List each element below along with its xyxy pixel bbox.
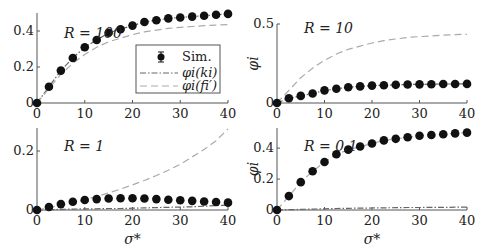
- sim-marker: [463, 80, 472, 89]
- sim-marker: [80, 196, 89, 205]
- sim-marker: [69, 54, 78, 63]
- sim-marker: [308, 167, 317, 176]
- figure-canvas: 01020304000.20.4R = 10001020304000.5R = …: [0, 0, 489, 252]
- legend-label-sim: Sim.: [182, 49, 212, 64]
- sim-marker: [439, 130, 448, 139]
- marker-icon: [158, 54, 165, 61]
- sim-marker: [427, 131, 436, 140]
- x-tick-label: 30: [411, 213, 428, 228]
- sim-marker: [116, 194, 125, 203]
- sim-marker: [285, 192, 294, 201]
- panel-annotation: R = 1: [63, 138, 104, 154]
- sim-marker: [140, 194, 149, 203]
- x-axis-label: σ*: [364, 231, 381, 247]
- sim-marker: [128, 194, 137, 203]
- sim-marker: [104, 194, 113, 203]
- panels: 01020304000.20.4R = 10001020304000.5R = …: [13, 10, 475, 247]
- sim-marker: [403, 80, 412, 89]
- sim-marker: [451, 80, 460, 89]
- y-tick-label: 0.2: [13, 143, 34, 158]
- x-tick-label: 30: [172, 106, 189, 121]
- sim-marker: [164, 195, 173, 204]
- sim-marker: [380, 136, 389, 145]
- sim-marker: [57, 66, 66, 75]
- panel-top-right: 01020304000.5R = 10φi: [245, 16, 475, 121]
- y-axis-label: φi: [245, 56, 261, 70]
- sim-marker: [200, 11, 209, 20]
- sim-marker: [427, 80, 436, 89]
- x-tick-label: 40: [459, 213, 476, 228]
- sim-marker: [332, 84, 341, 93]
- x-tick-label: 20: [364, 106, 381, 121]
- sim-marker: [176, 13, 185, 22]
- sim-marker: [212, 198, 221, 207]
- x-tick-label: 10: [316, 213, 333, 228]
- sim-marker: [45, 203, 54, 212]
- sim-marker: [296, 178, 305, 187]
- sim-marker: [128, 21, 137, 30]
- sim-marker: [356, 82, 365, 91]
- sim-marker: [320, 86, 329, 95]
- sim-marker: [176, 196, 185, 205]
- sim-marker: [188, 12, 197, 21]
- x-tick-label: 20: [124, 213, 141, 228]
- panel-bottom-left: 01020304000.2R = 1σ*: [13, 128, 236, 247]
- sim-marker: [391, 135, 400, 144]
- sim-marker: [212, 11, 221, 20]
- sim-marker: [152, 16, 161, 25]
- sim-marker: [285, 94, 294, 103]
- sim-marker: [140, 18, 149, 27]
- sim-marker: [33, 99, 42, 108]
- sim-marker: [45, 83, 54, 92]
- sim-marker: [415, 80, 424, 89]
- sim-marker: [415, 131, 424, 140]
- sim-marker: [296, 92, 305, 101]
- x-tick-label: 0: [33, 106, 41, 121]
- sim-marker: [451, 129, 460, 138]
- sim-marker: [344, 83, 353, 92]
- sim-marker: [368, 81, 377, 90]
- sim-marker: [188, 197, 197, 206]
- y-tick-label: 0.4: [253, 140, 274, 155]
- x-tick-label: 30: [172, 213, 189, 228]
- sim-marker: [320, 158, 329, 167]
- x-tick-label: 10: [76, 213, 93, 228]
- sim-marker: [57, 200, 66, 209]
- sim-marker: [273, 206, 282, 215]
- sim-marker: [308, 89, 317, 98]
- y-tick-label: 0.5: [253, 16, 274, 31]
- x-tick-label: 10: [316, 106, 333, 121]
- x-tick-label: 40: [459, 106, 476, 121]
- legend: Sim. φi(ki) φi(fi′): [136, 45, 220, 93]
- sim-marker: [224, 198, 233, 207]
- sim-marker: [152, 195, 161, 204]
- sim-marker: [69, 197, 78, 206]
- y-tick-label: 0.2: [13, 59, 34, 74]
- sim-marker: [33, 206, 42, 215]
- x-tick-label: 20: [124, 106, 141, 121]
- sim-marker: [164, 14, 173, 23]
- x-tick-label: 20: [364, 213, 381, 228]
- x-tick-label: 30: [411, 106, 428, 121]
- sim-marker: [380, 81, 389, 90]
- x-tick-label: 40: [220, 213, 237, 228]
- sim-marker: [391, 81, 400, 90]
- y-tick-label: 0.4: [13, 23, 34, 38]
- y-axis-label: φi: [245, 162, 261, 176]
- legend-label-f: φi(fi′): [182, 78, 217, 93]
- panel-annotation: R = 0.1: [303, 138, 357, 154]
- x-tick-label: 40: [220, 106, 237, 121]
- x-tick-label: 0: [273, 106, 281, 121]
- sim-marker: [80, 43, 89, 52]
- sim-marker: [273, 99, 282, 108]
- sim-marker: [463, 128, 472, 137]
- x-axis-label: σ*: [124, 231, 141, 247]
- sim-marker: [200, 197, 209, 206]
- curve-phi-f: [277, 34, 467, 103]
- sim-marker: [92, 195, 101, 204]
- panel-annotation: R = 100: [63, 25, 122, 41]
- sim-marker: [224, 10, 233, 19]
- x-tick-label: 10: [76, 106, 93, 121]
- x-tick-label: 0: [33, 213, 41, 228]
- x-tick-label: 0: [273, 213, 281, 228]
